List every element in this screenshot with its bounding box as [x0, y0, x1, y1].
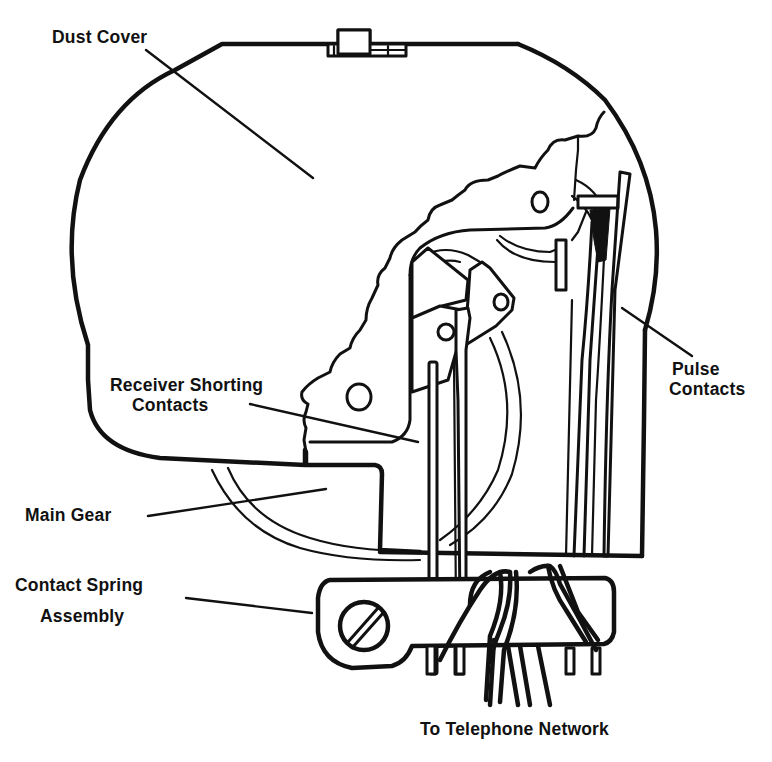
label-main-gear: Main Gear — [25, 505, 111, 525]
leader-pulse — [622, 308, 692, 356]
label-receiver-shorting-line1: Receiver Shorting — [110, 375, 263, 395]
label-contact-spring-line1: Contact Spring — [15, 575, 143, 595]
label-to-telephone-network: To Telephone Network — [420, 719, 609, 739]
leader-dust-cover — [146, 50, 313, 178]
label-dust-cover: Dust Cover — [52, 27, 147, 47]
leader-main-gear — [148, 489, 326, 516]
label-receiver-shorting-line2: Contacts — [132, 395, 208, 415]
label-contact-spring-line2: Assembly — [40, 606, 124, 626]
label-pulse-line2: Contacts — [669, 379, 745, 399]
leader-contact-spring — [186, 598, 312, 613]
label-pulse-line1: Pulse — [672, 359, 720, 379]
leader-receiver-shorting — [250, 404, 418, 442]
